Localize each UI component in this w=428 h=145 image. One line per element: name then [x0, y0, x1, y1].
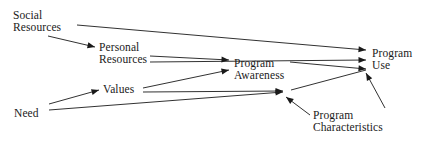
edge-line [291, 70, 366, 90]
node-label-text: Social [13, 9, 61, 21]
edge-characteristics-to-programuse [366, 73, 385, 108]
edge-need-to-junction [49, 90, 283, 110]
arrowhead-icon [358, 57, 366, 63]
edge-line [49, 90, 99, 104]
node-label-text: Resources [99, 53, 147, 65]
arrowhead-icon [91, 89, 99, 95]
edge-line [49, 92, 283, 110]
edge-line [143, 70, 229, 88]
arrowhead-icon [221, 69, 229, 75]
node-personal_resources: PersonalResources [99, 41, 147, 65]
edge-line [150, 56, 229, 60]
arrowhead-icon [366, 73, 372, 81]
node-values: Values [103, 83, 134, 95]
edge-values-to-junction [143, 88, 283, 94]
edge-line [143, 91, 283, 92]
node-label-text: Need [14, 107, 39, 119]
edge-programawareness-to-programuse [290, 62, 366, 71]
arrowhead-icon [87, 42, 95, 48]
node-label-text: Values [103, 83, 134, 95]
edge-social-to-personal [48, 36, 95, 48]
node-label-text: Use [372, 59, 412, 71]
edge-line [290, 62, 366, 69]
node-need: Need [14, 107, 39, 119]
node-program_use: ProgramUse [372, 47, 412, 71]
edge-values-to-programawareness [143, 69, 229, 88]
edge-characteristics-to-junction [286, 97, 310, 115]
node-social_resources: SocialResources [13, 9, 61, 33]
node-label-text: Characteristics [313, 121, 383, 133]
node-program_awareness: ProgramAwareness [234, 57, 284, 81]
edge-junction-to-programuse [291, 70, 366, 90]
node-label-text: Program [372, 47, 412, 59]
arrowhead-icon [358, 46, 366, 52]
node-label-text: Personal [99, 41, 147, 53]
edge-need-to-values [49, 89, 99, 104]
path-diagram: SocialResourcesPersonalResourcesProgramA… [0, 0, 428, 145]
node-label-text: Program [313, 109, 383, 121]
node-label-text: Awareness [234, 69, 284, 81]
arrowhead-icon [286, 97, 294, 104]
node-label-text: Program [234, 57, 284, 69]
node-label-text: Resources [13, 21, 61, 33]
node-program_characteristics: ProgramCharacteristics [313, 109, 383, 133]
